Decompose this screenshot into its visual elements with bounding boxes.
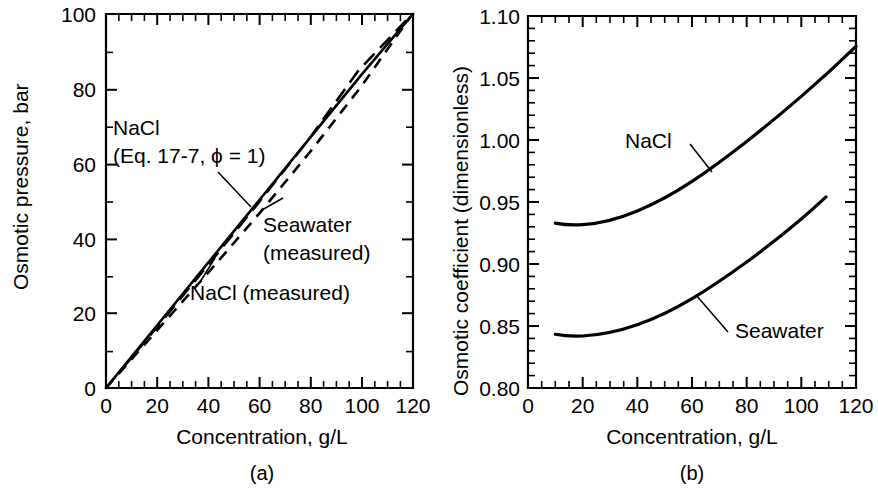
panel-a-xtick-60: 60 (248, 394, 271, 417)
panel-a-annot-seawater-line1: Seawater (263, 213, 352, 236)
panel-b-ytick-110: 1.10 (479, 5, 520, 28)
panel-a-ytick-100: 100 (61, 3, 96, 26)
panel-b-caption: (b) (680, 462, 704, 484)
panel-b-xtick-60: 60 (680, 394, 703, 417)
panel-a-ytick-20: 20 (73, 302, 96, 325)
curve-nacl-eq17-7 (106, 14, 413, 388)
panel-b-leader-seawater (696, 295, 728, 332)
curve-b-seawater (555, 197, 826, 336)
panel-b-x-tick-labels: 0 20 40 60 80 100 120 (522, 394, 873, 417)
panel-a-annot-nacl-eq-line1: NaCl (113, 116, 160, 139)
panel-a-annot-nacl-measured-line1: NaCl (measured) (190, 281, 350, 304)
panel-b-leader-nacl (690, 144, 712, 172)
panel-a-xtick-80: 80 (299, 394, 322, 417)
panel-b-annot-nacl: NaCl (625, 129, 672, 152)
panel-a-xtick-40: 40 (197, 394, 220, 417)
panel-a-ytick-80: 80 (73, 78, 96, 101)
panel-a-ytick-40: 40 (73, 228, 96, 251)
panel-b: Osmotic coefficient (dimensionless) (440, 0, 878, 488)
panel-a: Osmotic pressure, bar (0, 0, 440, 488)
panel-b-y-axis-title: Osmotic coefficient (dimensionless) (449, 66, 472, 396)
panel-a-annot-seawater-line2: (measured) (263, 241, 370, 264)
osmotic-pressure-figure: Osmotic pressure, bar (0, 0, 878, 488)
panel-a-leader-nacl-eq (218, 172, 251, 207)
panel-a-x-axis-title: Concentration, g/L (176, 425, 348, 448)
panel-b-ytick-085: 0.85 (479, 315, 520, 338)
panel-b-xtick-0: 0 (522, 394, 534, 417)
panel-b-xtick-80: 80 (735, 394, 758, 417)
panel-b-ytick-105: 1.05 (479, 67, 520, 90)
panel-a-xtick-0: 0 (100, 394, 112, 417)
panel-b-xtick-20: 20 (571, 394, 594, 417)
panel-a-x-tick-labels: 0 20 40 60 80 100 120 (100, 394, 430, 417)
panel-a-ytick-0: 0 (84, 377, 96, 400)
panel-a-annotation-nacl-eq: NaCl (Eq. 17-7, ϕ = 1) (113, 116, 265, 207)
panel-b-xtick-100: 100 (784, 394, 819, 417)
panel-b-ytick-095: 0.95 (479, 191, 520, 214)
panel-b-ytick-100: 1.00 (479, 129, 520, 152)
curve-b-nacl (555, 46, 856, 225)
panel-b-xtick-120: 120 (838, 394, 873, 417)
panel-a-curves (106, 14, 413, 388)
panel-a-xtick-20: 20 (146, 394, 169, 417)
panel-b-x-axis-title: Concentration, g/L (606, 425, 778, 448)
panel-a-leader-seawater (262, 198, 283, 210)
panel-b-xtick-40: 40 (626, 394, 649, 417)
panel-b-annotation-nacl: NaCl (625, 129, 712, 172)
panel-b-ytick-080: 0.80 (479, 377, 520, 400)
panel-a-annot-nacl-eq-line2: (Eq. 17-7, ϕ = 1) (113, 144, 265, 167)
panel-a-y-axis-title: Osmotic pressure, bar (9, 83, 32, 290)
panel-a-ytick-60: 60 (73, 153, 96, 176)
panel-b-curves (555, 46, 856, 336)
panel-b-annotation-seawater: Seawater (696, 295, 824, 342)
panel-a-caption: (a) (250, 462, 274, 484)
panel-b-annot-seawater: Seawater (735, 319, 824, 342)
panel-a-xtick-100: 100 (344, 394, 379, 417)
panel-a-y-tick-labels: 0 20 40 60 80 100 (61, 3, 96, 400)
panel-b-y-tick-labels: 0.80 0.85 0.90 0.95 1.00 1.05 1.10 (479, 5, 520, 400)
panel-a-annotation-seawater: Seawater (measured) (262, 198, 370, 264)
panel-a-xtick-120: 120 (395, 394, 430, 417)
panel-b-ytick-090: 0.90 (479, 253, 520, 276)
panel-a-annotation-nacl-measured: NaCl (measured) (190, 258, 350, 304)
